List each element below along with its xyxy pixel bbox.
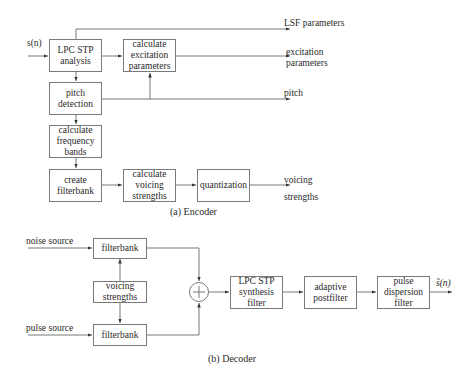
pulse-filterbank-block: filterbank — [93, 324, 147, 346]
output-signal-label: s̃(n) — [436, 278, 451, 289]
noise-filterbank-block: filterbank — [93, 238, 147, 259]
calculate-frequency-bands-block: calculate frequency bands — [49, 125, 102, 158]
excitation-parameters-output-label: excitation parameters — [286, 47, 328, 69]
calculate-excitation-block: calculate excitation parameters — [123, 39, 176, 72]
input-signal-label: s(n) — [27, 38, 42, 49]
pitch-detection-block: pitch detection — [49, 82, 102, 115]
pulse-source-label: pulse source — [26, 323, 73, 334]
quantization-block: quantization — [197, 169, 250, 202]
summation-node-icon — [189, 282, 209, 302]
voicing-strengths-block: voicing strengths — [93, 281, 147, 303]
adaptive-postfilter-block: adaptive postfilter — [304, 276, 357, 309]
encoder-caption: (a) Encoder — [170, 206, 217, 217]
pulse-dispersion-filter-block: pulse dispersion filter — [377, 276, 430, 309]
decoder-caption: (b) Decoder — [208, 353, 256, 364]
lpc-stp-synthesis-filter-block: LPC STP synthesis filter — [230, 276, 283, 309]
pitch-output-label: pitch — [284, 88, 303, 99]
lsf-parameters-output-label: LSF parameters — [284, 18, 344, 29]
noise-source-label: noise source — [26, 236, 73, 247]
create-filterbank-block: create filterbank — [49, 169, 102, 202]
calculate-voicing-strengths-block: calculate voicing strengths — [123, 169, 176, 202]
lpc-stp-analysis-block: LPC STP analysis — [49, 39, 102, 72]
voicing-strengths-output-label: voicing strengths — [284, 172, 318, 206]
